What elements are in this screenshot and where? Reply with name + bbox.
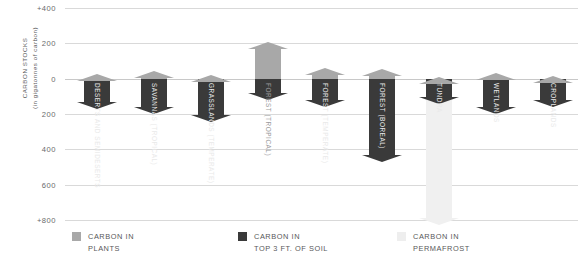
bar-segment-plants xyxy=(255,42,281,79)
bar-segment-plants xyxy=(198,75,224,79)
plants-body xyxy=(312,75,338,79)
bar-segment-plants xyxy=(84,74,110,78)
bar-segment-soil xyxy=(84,79,110,109)
soil-body xyxy=(369,79,395,155)
soil-arrow-down xyxy=(77,102,117,109)
legend-item[interactable]: CARBON IN PERMAFROST xyxy=(397,231,470,254)
soil-body xyxy=(312,79,338,100)
bar-group[interactable]: DESERTS AND SEMIDESERTS xyxy=(84,8,110,220)
carbon-stocks-chart: CARBON STOCKS (in gigatonnes of carbon) … xyxy=(0,0,586,271)
permafrost-arrow-down xyxy=(419,218,459,225)
soil-body xyxy=(198,79,224,115)
plants-arrow-up xyxy=(248,42,288,49)
y-axis-tick-label: +800 xyxy=(37,216,56,225)
soil-body xyxy=(141,79,167,107)
soil-arrow-down xyxy=(419,97,459,104)
legend-label: CARBON IN TOP 3 FT. OF SOIL xyxy=(254,231,328,254)
plants-arrow-up xyxy=(362,69,402,76)
legend-swatch xyxy=(72,232,81,241)
legend-swatch xyxy=(397,232,406,241)
bar-segment-soil xyxy=(312,79,338,107)
plants-body xyxy=(141,78,167,79)
soil-body xyxy=(84,79,110,102)
bar-segment-plants xyxy=(483,73,509,78)
soil-arrow-down xyxy=(476,107,516,114)
legend-item[interactable]: CARBON IN TOP 3 FT. OF SOIL xyxy=(238,231,328,254)
soil-arrow-down xyxy=(248,93,288,100)
plants-arrow-up xyxy=(191,75,231,82)
bar-segment-plants xyxy=(312,68,338,79)
bar-segment-soil xyxy=(141,79,167,114)
chart-legend: CARBON IN PLANTSCARBON IN TOP 3 FT. OF S… xyxy=(72,231,572,263)
plot-area: DESERTS AND SEMIDESERTSSAVANNAS (TROPICA… xyxy=(65,8,578,220)
bar-group[interactable]: TUNDRA xyxy=(426,8,452,220)
plants-arrow-up xyxy=(476,73,516,80)
bar-segment-soil xyxy=(369,79,395,162)
soil-arrow-down xyxy=(134,107,174,114)
bar-segment-soil xyxy=(198,79,224,122)
bar-group[interactable]: FOREST (TEMPERATE) xyxy=(312,8,338,220)
plants-arrow-up xyxy=(305,68,345,75)
y-axis-tick-label: 0 xyxy=(51,74,56,83)
bar-segment-plants xyxy=(141,71,167,79)
bar-segment-plants xyxy=(369,69,395,79)
plants-arrow-up xyxy=(533,76,573,83)
plants-arrow-up xyxy=(77,74,117,81)
y-axis-tick-label: 200 xyxy=(42,39,56,48)
bar-segment-plants xyxy=(540,76,566,79)
bar-group[interactable]: FOREST (BOREAL) xyxy=(369,8,395,220)
legend-swatch xyxy=(238,232,247,241)
soil-arrow-down xyxy=(191,115,231,122)
bar-group[interactable]: GRASSLANDS (TEMPERATE) xyxy=(198,8,224,220)
bar-segment-plants xyxy=(426,77,452,79)
y-axis-tick-label: 400 xyxy=(42,145,56,154)
bar-group[interactable]: WETLANDS xyxy=(483,8,509,220)
bar-group[interactable]: FOREST (TROPICAL) xyxy=(255,8,281,220)
bar-segment-soil xyxy=(483,79,509,114)
legend-label: CARBON IN PLANTS xyxy=(88,231,134,254)
legend-item[interactable]: CARBON IN PLANTS xyxy=(72,231,134,254)
soil-body xyxy=(483,79,509,107)
soil-arrow-down xyxy=(362,155,402,162)
legend-label: CARBON IN PERMAFROST xyxy=(413,231,470,254)
plants-body xyxy=(255,49,281,79)
bar-group[interactable]: SAVANNAS (TROPICAL) xyxy=(141,8,167,220)
y-axis-tick-labels: +4002000200400600+800 xyxy=(0,8,62,220)
plants-body xyxy=(369,76,395,79)
plants-arrow-up xyxy=(419,77,459,84)
y-axis-tick-label: +400 xyxy=(37,4,56,13)
bar-group[interactable]: CROPLANDS xyxy=(540,8,566,220)
y-axis-tick-label: 200 xyxy=(42,110,56,119)
plants-arrow-up xyxy=(134,71,174,78)
gridline xyxy=(65,220,578,221)
soil-arrow-down xyxy=(533,100,573,107)
soil-body xyxy=(255,79,281,93)
bar-segment-soil xyxy=(255,79,281,100)
soil-arrow-down xyxy=(305,100,345,107)
y-axis-tick-label: 600 xyxy=(42,180,56,189)
